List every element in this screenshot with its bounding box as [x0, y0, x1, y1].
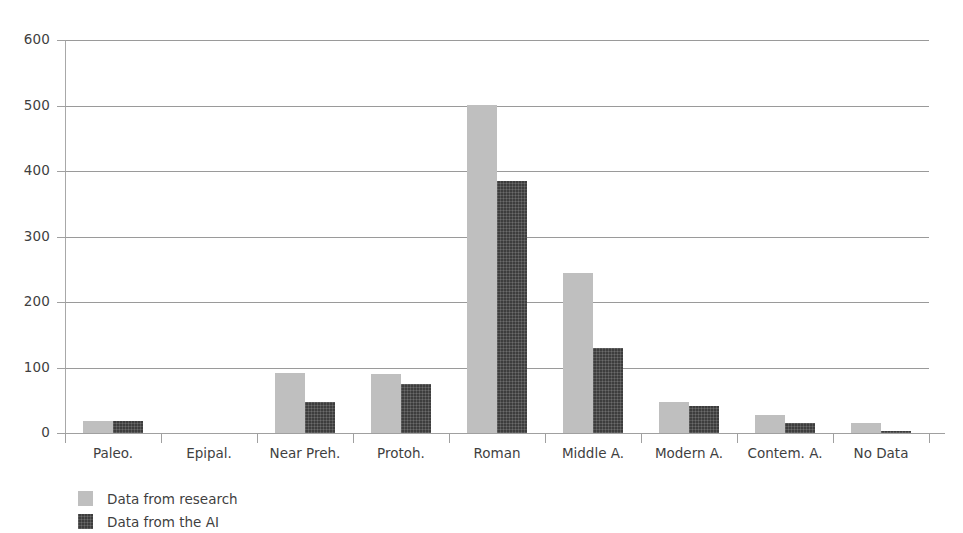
x-axis-labels: Paleo.Epipal.Near Preh.Protoh.RomanMiddl… [65, 445, 929, 467]
x-tick-mark [353, 434, 354, 443]
bar-group [353, 40, 449, 433]
y-tick-mark-300 [57, 237, 66, 238]
legend-item[interactable]: Data from research [78, 487, 238, 510]
y-tick-mark-600 [57, 40, 66, 41]
x-tick-label: Middle A. [545, 445, 641, 461]
x-tick-mark [929, 434, 930, 443]
x-tick-label: Protoh. [353, 445, 449, 461]
y-tick-label-300: 300 [0, 228, 50, 244]
bar-dark [497, 181, 527, 433]
legend-item[interactable]: Data from the AI [78, 510, 238, 533]
x-tick-label: Near Preh. [257, 445, 353, 461]
legend-label: Data from research [107, 491, 238, 507]
y-tick-label-600: 600 [0, 31, 50, 47]
x-tick-mark [545, 434, 546, 443]
bar-dark [785, 423, 815, 433]
bar-dark [401, 384, 431, 433]
legend-swatch-dark-icon [78, 514, 93, 529]
x-tick-label: Epipal. [161, 445, 257, 461]
bar-group [257, 40, 353, 433]
bar-dark [689, 406, 719, 434]
y-tick-label-500: 500 [0, 97, 50, 113]
x-tick-label: Contem. A. [737, 445, 833, 461]
bar-light [755, 415, 785, 433]
y-axis-labels: 0100200300400500600 [0, 0, 50, 533]
x-tick-label: Roman [449, 445, 545, 461]
x-tick-label: No Data [833, 445, 929, 461]
x-tick-label: Paleo. [65, 445, 161, 461]
bar-light [371, 374, 401, 433]
bar-light [275, 373, 305, 433]
x-tick-mark [449, 434, 450, 443]
x-tick-mark [161, 434, 162, 443]
bar-dark [113, 421, 143, 433]
y-tick-label-100: 100 [0, 359, 50, 375]
y-tick-label-0: 0 [0, 424, 50, 440]
bar-light [659, 402, 689, 433]
legend-label: Data from the AI [107, 514, 219, 530]
bar-dark [305, 402, 335, 433]
bar-group [641, 40, 737, 433]
x-tick-mark [641, 434, 642, 443]
y-tick-label-200: 200 [0, 293, 50, 309]
y-tick-mark-200 [57, 302, 66, 303]
bar-light [467, 105, 497, 433]
plot-area [65, 40, 929, 433]
y-tick-label-400: 400 [0, 162, 50, 178]
bar-light [563, 273, 593, 433]
x-tick-mark [737, 434, 738, 443]
bar-group [161, 40, 257, 433]
y-tick-mark-100 [57, 368, 66, 369]
bar-dark [593, 348, 623, 433]
bar-group [65, 40, 161, 433]
chart-legend: Data from researchData from the AI [78, 487, 238, 533]
x-axis-ticks [65, 434, 945, 444]
bar-group [545, 40, 641, 433]
y-tick-mark-500 [57, 106, 66, 107]
y-tick-mark-0 [57, 433, 66, 434]
x-tick-label: Modern A. [641, 445, 737, 461]
bar-group [449, 40, 545, 433]
legend-swatch-light-icon [78, 491, 93, 506]
x-tick-mark [65, 434, 66, 443]
bar-group [737, 40, 833, 433]
y-tick-mark-400 [57, 171, 66, 172]
x-tick-mark [833, 434, 834, 443]
chart-page: 0100200300400500600 Paleo.Epipal.Near Pr… [0, 0, 963, 533]
bar-group [833, 40, 929, 433]
x-tick-mark [257, 434, 258, 443]
bar-light [83, 421, 113, 433]
bar-light [851, 423, 881, 433]
